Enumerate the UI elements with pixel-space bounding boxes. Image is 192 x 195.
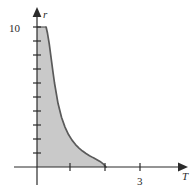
x-axis-tick-label-3: 3 [137, 176, 143, 187]
shaded-region [37, 27, 106, 167]
x-axis-label: T [182, 171, 188, 182]
y-axis-arrowhead [33, 7, 42, 17]
figure-container: r T 10 3 [0, 0, 192, 195]
y-axis-label: r [43, 9, 47, 20]
y-axis-tick-label-10: 10 [9, 23, 20, 34]
plot-svg [0, 0, 192, 195]
